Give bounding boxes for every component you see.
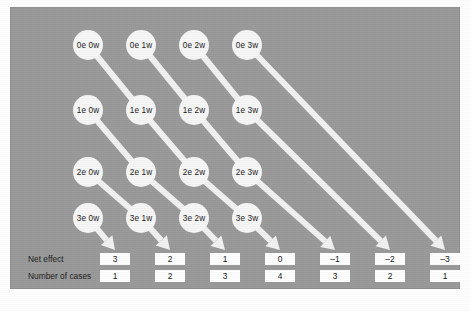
net-effect-cell: –2 [375, 253, 405, 265]
net-effect-cell-value: 3 [100, 253, 130, 265]
number-of-cases-cell: 4 [265, 270, 295, 282]
node-circle[interactable] [232, 203, 262, 233]
net-effect-cell: 0 [265, 253, 295, 265]
number-of-cases-cell-value: 3 [210, 270, 240, 282]
node-circle[interactable] [179, 157, 209, 187]
net-effect-cell: –3 [430, 253, 460, 265]
net-effect-cell: 1 [210, 253, 240, 265]
figure-root: 0e 0w0e 1w0e 2w0e 3w1e 0w1e 1w1e 2w1e 3w… [0, 0, 470, 311]
node-circle[interactable] [126, 157, 156, 187]
number-of-cases-cell: 3 [210, 270, 240, 282]
net-effect-cell: –1 [320, 253, 350, 265]
net-effect-cell-value: 1 [210, 253, 240, 265]
number-of-cases-cell-value: 4 [265, 270, 295, 282]
node-circle[interactable] [73, 157, 103, 187]
number-of-cases-cell: 1 [100, 270, 130, 282]
node-circle[interactable] [179, 30, 209, 60]
net-effect-cell-value: –3 [430, 253, 460, 265]
net-effect-cell: 2 [155, 253, 185, 265]
number-of-cases-cell: 1 [430, 270, 460, 282]
node-circle[interactable] [73, 95, 103, 125]
number-of-cases-cell: 2 [155, 270, 185, 282]
node-circle[interactable] [179, 203, 209, 233]
number-of-cases-cell-value: 1 [430, 270, 460, 282]
number-of-cases-cell-value: 2 [155, 270, 185, 282]
node-circle[interactable] [73, 203, 103, 233]
number-of-cases-cell-value: 3 [320, 270, 350, 282]
net-effect-cell-value: –1 [320, 253, 350, 265]
node-circle[interactable] [232, 157, 262, 187]
node-circle[interactable] [73, 30, 103, 60]
net-effect-cell-value: 2 [155, 253, 185, 265]
node-circle[interactable] [232, 95, 262, 125]
node-circle[interactable] [179, 95, 209, 125]
number-of-cases-cell: 2 [375, 270, 405, 282]
number-of-cases-cell-value: 2 [375, 270, 405, 282]
net-effect-cell-value: –2 [375, 253, 405, 265]
number-of-cases-cell-value: 1 [100, 270, 130, 282]
node-circle[interactable] [126, 203, 156, 233]
node-circle[interactable] [126, 95, 156, 125]
connector-arrow [247, 110, 390, 250]
net-effect-row-label: Net effect [28, 254, 64, 264]
net-effect-cell-value: 0 [265, 253, 295, 265]
connector-arrow [247, 45, 445, 250]
node-circle[interactable] [232, 30, 262, 60]
net-effect-cell: 3 [100, 253, 130, 265]
number-of-cases-row-label: Number of cases [28, 271, 91, 281]
node-circle[interactable] [126, 30, 156, 60]
number-of-cases-cell: 3 [320, 270, 350, 282]
